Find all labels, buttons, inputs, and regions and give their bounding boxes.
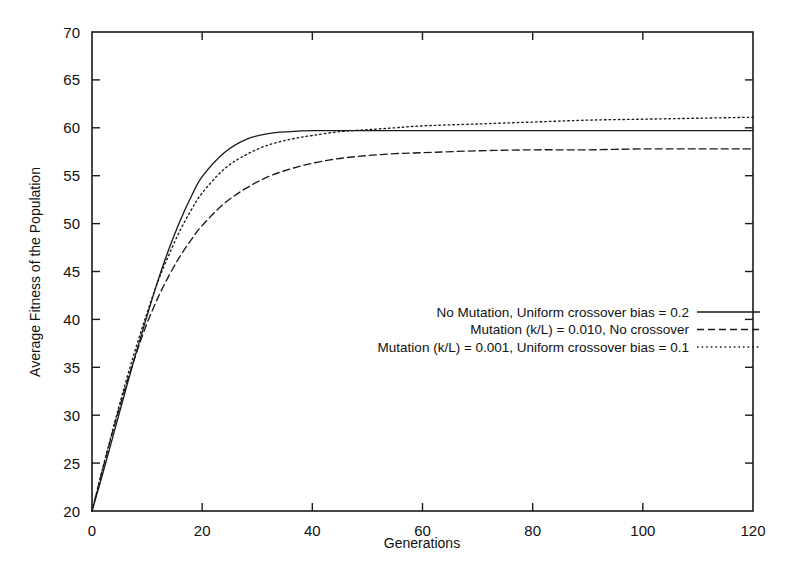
y-tick-label-45: 45 xyxy=(63,263,80,280)
figure-container: 2025303540455055606570 020406080100120 A… xyxy=(0,0,800,583)
y-tick-label-60: 60 xyxy=(63,119,80,136)
chart-background xyxy=(0,0,800,583)
y-tick-label-30: 30 xyxy=(63,407,80,424)
line-chart: 2025303540455055606570 020406080100120 A… xyxy=(0,0,800,583)
y-tick-label-35: 35 xyxy=(63,359,80,376)
y-tick-label-55: 55 xyxy=(63,167,80,184)
y-tick-label-70: 70 xyxy=(63,24,80,41)
x-tick-label-20: 20 xyxy=(194,522,211,539)
legend-label-2: Mutation (k/L) = 0.001, Uniform crossove… xyxy=(378,340,689,355)
y-axis-title: Average Fitness of the Population xyxy=(27,167,43,377)
y-tick-label-20: 20 xyxy=(63,503,80,520)
legend-label-1: Mutation (k/L) = 0.010, No crossover xyxy=(470,322,689,337)
y-tick-label-65: 65 xyxy=(63,71,80,88)
y-tick-label-40: 40 xyxy=(63,311,80,328)
legend-label-0: No Mutation, Uniform crossover bias = 0.… xyxy=(437,305,689,320)
x-tick-label-100: 100 xyxy=(630,522,655,539)
x-tick-label-0: 0 xyxy=(88,522,96,539)
x-tick-label-120: 120 xyxy=(740,522,765,539)
x-axis-title: Generations xyxy=(384,535,460,551)
x-tick-label-40: 40 xyxy=(304,522,321,539)
x-tick-label-80: 80 xyxy=(524,522,541,539)
y-tick-label-50: 50 xyxy=(63,215,80,232)
y-tick-label-25: 25 xyxy=(63,455,80,472)
